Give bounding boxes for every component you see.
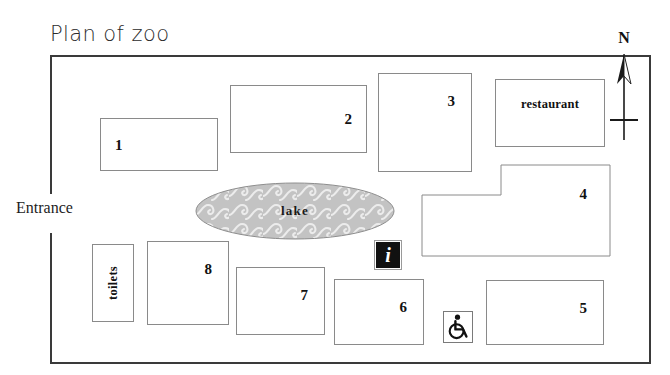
zoo-map-figure: Plan of zoo Entrance N 1 2 3 restaurant [0,0,670,375]
enclosure-2[interactable]: 2 [230,85,367,153]
enclosure-6-label: 6 [400,300,408,315]
compass-rose: N [606,30,642,140]
enclosure-4[interactable]: 4 [421,164,611,257]
enclosure-3[interactable]: 3 [378,73,472,172]
lake: lake [195,182,395,240]
wheelchair-glyph [444,312,472,342]
map-border-bottom [50,362,651,364]
restaurant-building[interactable]: restaurant [495,79,605,147]
enclosure-8-label: 8 [205,262,213,277]
map-border-left-lower [50,233,52,364]
enclosure-7-label: 7 [301,288,309,303]
information-icon[interactable]: i [375,241,401,269]
entrance-label: Entrance [16,199,73,217]
toilets-building[interactable]: toilets [92,244,134,322]
enclosure-1-label: 1 [115,137,123,152]
enclosure-7[interactable]: 7 [236,267,325,335]
enclosure-4-shape [421,164,611,257]
map-border-right [649,55,651,364]
enclosure-5-label: 5 [580,301,588,316]
enclosure-3-label: 3 [448,94,456,109]
information-glyph: i [376,245,400,265]
wheelchair-accessible-icon[interactable] [443,311,473,343]
map-border-left-upper [50,55,52,194]
lake-label: lake [195,203,395,219]
enclosure-1[interactable]: 1 [100,118,218,171]
enclosure-2-label: 2 [345,112,353,127]
enclosure-5[interactable]: 5 [486,280,604,345]
toilets-label: toilets [106,266,121,300]
enclosure-8[interactable]: 8 [147,241,229,325]
restaurant-label: restaurant [496,97,604,112]
page-title: Plan of zoo [50,22,169,46]
compass-north-label: N [606,30,642,46]
enclosure-4-label: 4 [580,186,588,203]
compass-needle-icon [606,50,642,140]
enclosure-6[interactable]: 6 [334,279,424,345]
map-border-top [50,55,651,57]
